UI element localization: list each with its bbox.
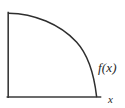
curve-label-fx: f(x) — [98, 61, 117, 74]
curve-group — [9, 13, 97, 96]
figure-container: f(x) x — [0, 0, 125, 108]
function-plot-svg — [0, 0, 125, 108]
function-curve — [9, 13, 97, 96]
x-axis-label: x — [108, 94, 113, 105]
